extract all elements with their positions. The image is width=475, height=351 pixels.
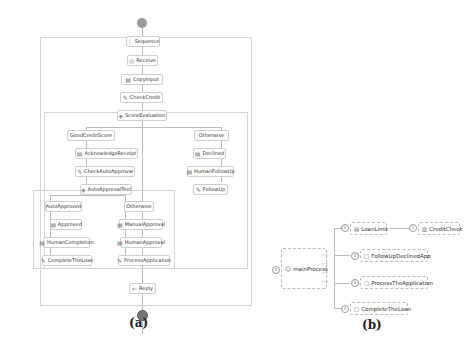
caption-b: (b): [362, 318, 382, 332]
invoke-icon: ✎: [196, 184, 201, 195]
pin-loanlimit[interactable]: 1: [341, 224, 349, 232]
caption-a: (a): [129, 316, 148, 330]
invoke-icon: ✎: [117, 255, 122, 266]
assign-icon: ▤: [186, 166, 192, 177]
user-icon: ☺: [285, 265, 291, 272]
receive-icon: ◎: [129, 55, 134, 66]
clipboard-icon: ▢: [354, 306, 359, 312]
db-icon: ▥: [422, 226, 427, 232]
pin-completetheloan[interactable]: 1: [341, 305, 349, 313]
node-otherwise2[interactable]: Otherwise: [124, 201, 154, 212]
node-acknowledgereceipt[interactable]: ▤AcknowledgeReceipt: [75, 148, 138, 159]
assign-icon: ▤: [77, 148, 83, 159]
assign-icon: ▤: [125, 74, 131, 85]
node-completetheloan[interactable]: ✎CompleteTheLoan: [42, 255, 92, 266]
tree-node-creditcheck[interactable]: ▥CreditCheck: [418, 222, 460, 235]
node-autoapprovaltest[interactable]: ◈AutoApprovalTest: [80, 184, 132, 195]
clipboard-icon: ▢: [364, 253, 369, 259]
assign-icon: ▤: [117, 219, 123, 230]
node-humanapproval[interactable]: ▤HumanApproval: [120, 237, 162, 248]
tree-branch-2: [334, 255, 350, 256]
node-copyinput[interactable]: ▤CopyInput: [121, 74, 163, 85]
tree-node-followupdeclinedapp[interactable]: ▢FollowUpDeclinedApp: [360, 249, 428, 262]
node-otherwise1[interactable]: Otherwise: [194, 130, 229, 141]
pin-root[interactable]: 1: [272, 266, 280, 274]
tree-node-processtheapplication[interactable]: ▢ProcessTheApplication: [360, 276, 428, 289]
invoke-icon: ✎: [41, 255, 46, 266]
doc-icon: ▤: [354, 226, 359, 232]
node-goodcreditscore[interactable]: GoodCreditScore: [67, 130, 115, 141]
node-autoapproved[interactable]: AutoApproved: [45, 201, 82, 212]
node-humanfollowup[interactable]: ▤HumanFollowUp: [187, 166, 234, 177]
tree-node-mainprocess[interactable]: ☺mainProcess: [281, 248, 327, 289]
tree-node-loanlimit[interactable]: ▤LoanLimit: [350, 222, 387, 235]
clipboard-icon: ▢: [364, 280, 369, 286]
invoke-icon: ✎: [77, 166, 82, 177]
pin-processtheapplication[interactable]: 1: [351, 279, 359, 287]
sequence-icon: ⋮: [127, 36, 133, 47]
node-followup[interactable]: ✎FollowUp: [193, 184, 228, 195]
reply-icon: ⇐: [132, 283, 137, 294]
node-approved[interactable]: ▤Approved: [50, 219, 82, 230]
node-receive[interactable]: ◎Receive: [127, 55, 158, 66]
assign-icon: ▤: [50, 219, 56, 230]
tree-trunk-line: [334, 228, 335, 308]
assign-icon: ▤: [195, 148, 201, 159]
node-scoreevaluation[interactable]: ◈ScoreEvaluation: [117, 110, 167, 121]
node-reply[interactable]: ⇐Reply: [129, 283, 156, 294]
pin-creditcheck[interactable]: 1: [409, 224, 417, 232]
branch-line-score: [86, 127, 221, 128]
node-manualapproval[interactable]: ▤ManualApproval: [119, 219, 163, 230]
assign-icon: ▤: [39, 237, 45, 248]
invoke-icon: ✎: [123, 92, 128, 103]
node-checkautoapproval[interactable]: ✎CheckAutoApproval: [75, 166, 135, 177]
choice-icon: ◈: [81, 184, 86, 195]
node-checkcredit[interactable]: ✎CheckCredit: [120, 92, 163, 103]
start-node: [137, 18, 147, 28]
branch-line-auto: [50, 195, 125, 196]
assign-icon: ▤: [117, 237, 123, 248]
tree-branch-3: [334, 283, 350, 284]
connector-handles: ⊦⊣⊦⊣⊦⊣⊦⊣: [322, 250, 328, 286]
tree-node-completetheloan[interactable]: ▢CompleteTheLoan: [350, 302, 408, 315]
node-processapplication[interactable]: ✎ProcessApplication: [118, 255, 170, 266]
pin-followupdeclinedapp[interactable]: 1: [351, 252, 359, 260]
choice-icon: ◈: [119, 110, 124, 121]
node-declined[interactable]: ▤Declined: [193, 148, 226, 159]
node-sequence[interactable]: ⋮Sequence: [126, 36, 160, 47]
node-humancompletion[interactable]: ▤HumanCompletion: [43, 237, 90, 248]
tree-branch-5: [390, 228, 410, 229]
